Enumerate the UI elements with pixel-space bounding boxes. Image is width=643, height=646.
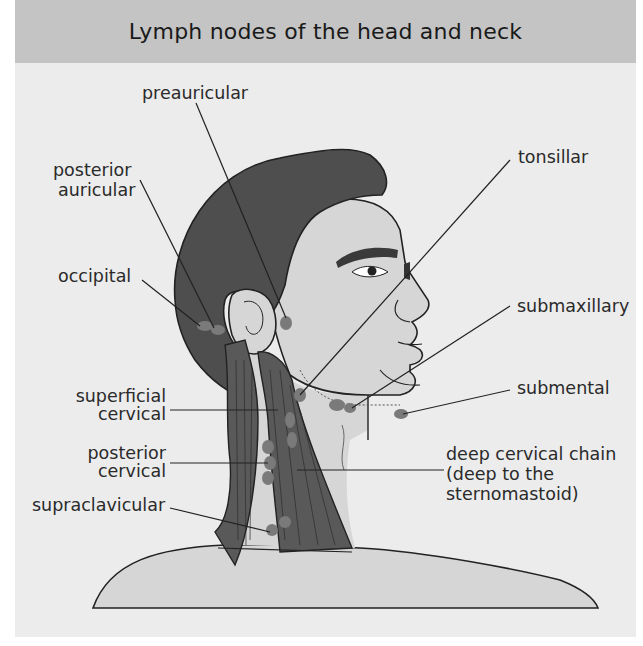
label-submaxillary: submaxillary bbox=[517, 296, 629, 316]
label-deep-cervical-line2: (deep to the bbox=[446, 464, 554, 484]
label-deep-cervical-line1: deep cervical chain bbox=[446, 444, 616, 464]
label-deep-cervical-line3: sternomastoid) bbox=[446, 484, 579, 504]
label-superficial-cervical-line2: cervical bbox=[98, 404, 166, 424]
label-posterior-auricular-line2: auricular bbox=[58, 180, 135, 200]
label-submental: submental bbox=[517, 378, 610, 398]
label-supraclavicular: supraclavicular bbox=[32, 495, 165, 515]
label-occipital: occipital bbox=[58, 266, 131, 286]
label-posterior-cervical-line2: cervical bbox=[98, 461, 166, 481]
label-superficial-cervical-line1: superficial bbox=[76, 386, 166, 406]
label-posterior-cervical-line1: posterior bbox=[87, 443, 166, 463]
head-neck-illustration bbox=[0, 0, 643, 646]
label-posterior-auricular-line1: posterior bbox=[53, 160, 132, 180]
shoulders bbox=[93, 545, 598, 608]
label-preauricular: preauricular bbox=[142, 83, 248, 103]
label-tonsillar: tonsillar bbox=[518, 147, 588, 167]
